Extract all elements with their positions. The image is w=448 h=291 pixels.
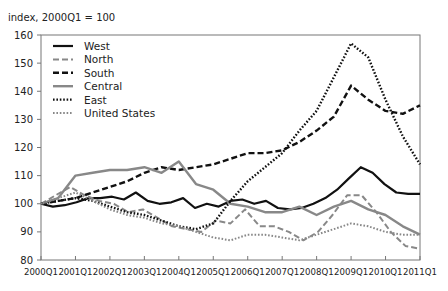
y-tick-label: 110 (14, 170, 33, 181)
x-tick-label: 2008Q1 (300, 267, 334, 277)
x-axis: 2000Q12001Q12002Q12003Q12004Q12005Q12006… (24, 256, 437, 277)
legend: WestNorthSouthCentralEastUnited States (53, 40, 155, 119)
x-tick-label: 2009Q1 (334, 267, 368, 277)
x-tick-label: 2000Q1 (24, 267, 58, 277)
line-chart: index, 2000Q1 = 100 80901001101201301401… (0, 0, 448, 291)
y-tick-label: 160 (14, 30, 33, 41)
legend-label: East (84, 94, 107, 106)
x-tick-label: 2002Q1 (93, 267, 127, 277)
x-tick-label: 2011Q1 (403, 267, 437, 277)
y-tick-label: 90 (20, 226, 33, 237)
legend-label: West (84, 40, 110, 52)
y-tick-label: 140 (14, 86, 33, 97)
y-tick-label: 130 (14, 114, 33, 125)
legend-label: South (84, 67, 115, 79)
x-tick-label: 2007Q1 (265, 267, 299, 277)
series-line-north (41, 187, 420, 249)
y-tick-label: 100 (14, 198, 33, 209)
x-tick-label: 2004Q1 (162, 267, 196, 277)
x-tick-label: 2001Q1 (58, 267, 92, 277)
y-axis: 8090100110120130140150160 (14, 30, 41, 266)
y-tick-label: 150 (14, 58, 33, 69)
x-tick-label: 2010Q1 (368, 267, 402, 277)
x-tick-label: 2006Q1 (231, 267, 265, 277)
legend-label: North (84, 53, 113, 65)
legend-label: United States (84, 107, 155, 119)
y-axis-label: index, 2000Q1 = 100 (8, 12, 115, 23)
y-tick-label: 120 (14, 142, 33, 153)
legend-label: Central (84, 80, 122, 92)
chart-container: index, 2000Q1 = 100 80901001101201301401… (0, 0, 448, 291)
x-tick-label: 2003Q1 (127, 267, 161, 277)
x-tick-label: 2005Q1 (196, 267, 230, 277)
y-tick-label: 80 (20, 255, 33, 266)
